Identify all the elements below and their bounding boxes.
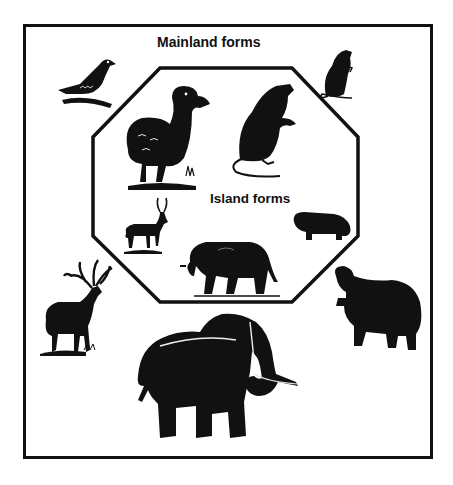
island-forms-label: Island forms [210, 191, 290, 206]
hippo-icon [335, 266, 421, 350]
rat-icon [321, 50, 352, 98]
pygmy-hippo-icon [294, 212, 351, 240]
dodo-icon [127, 86, 210, 190]
dwarf-elephant-icon [180, 242, 280, 296]
giant-rat-icon [233, 84, 296, 177]
pigeon-icon [58, 60, 116, 109]
elk-icon [40, 260, 112, 356]
elephant-icon [138, 314, 298, 438]
dwarf-deer-icon [124, 198, 168, 254]
mainland-forms-label: Mainland forms [157, 34, 260, 50]
figure-artwork [0, 0, 453, 485]
